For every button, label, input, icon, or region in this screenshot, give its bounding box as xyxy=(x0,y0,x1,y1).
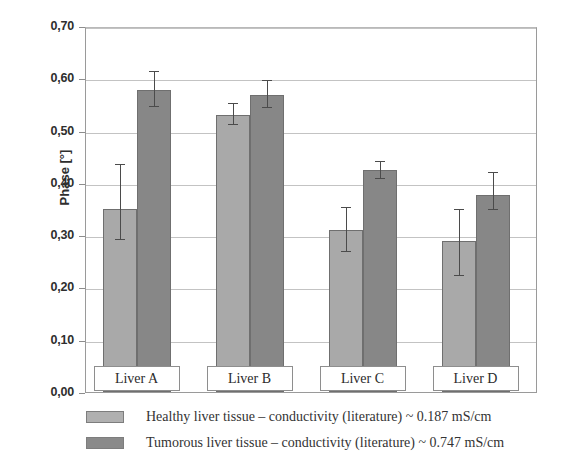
gridline xyxy=(86,28,536,29)
error-bar-cap-bottom xyxy=(115,239,125,240)
error-bar xyxy=(228,103,238,125)
y-tick-label: 0,40 xyxy=(14,176,74,190)
error-bar-cap-top xyxy=(341,207,351,208)
y-tick-label: 0,20 xyxy=(14,280,74,294)
error-bar-stem xyxy=(233,103,234,125)
error-bar-cap-bottom xyxy=(262,107,272,108)
error-bar-cap-top xyxy=(454,209,464,210)
error-bar-stem xyxy=(493,172,494,210)
bar-tumorous xyxy=(137,90,171,392)
error-bar-stem xyxy=(380,161,381,179)
y-tick-label: 0,70 xyxy=(14,19,74,33)
legend-label-tumorous: Tumorous liver tissue – conductivity (li… xyxy=(146,435,504,451)
error-bar-cap-top xyxy=(149,71,159,72)
error-bar xyxy=(488,172,498,210)
legend-swatch-healthy-icon xyxy=(86,411,124,423)
error-bar xyxy=(115,164,125,240)
error-bar-cap-top xyxy=(115,164,125,165)
legend-item: Tumorous liver tissue – conductivity (li… xyxy=(86,430,556,456)
category-label-liver-b: Liver B xyxy=(207,366,293,391)
legend-label-healthy: Healthy liver tissue – conductivity (lit… xyxy=(146,409,491,425)
y-tick-label: 0,00 xyxy=(14,385,74,399)
category-label-liver-d: Liver D xyxy=(433,366,519,391)
bar-tumorous xyxy=(363,170,397,392)
y-tick-label: 0,50 xyxy=(14,124,74,138)
bar-healthy xyxy=(216,115,250,392)
y-tick-mark xyxy=(79,393,85,394)
error-bar-cap-bottom xyxy=(228,124,238,125)
chart-legend: Healthy liver tissue – conductivity (lit… xyxy=(86,404,556,456)
bar-tumorous xyxy=(476,195,510,392)
error-bar-cap-top xyxy=(228,103,238,104)
error-bar xyxy=(262,80,272,108)
error-bar-cap-top xyxy=(488,172,498,173)
legend-item: Healthy liver tissue – conductivity (lit… xyxy=(86,404,556,430)
error-bar-cap-top xyxy=(262,80,272,81)
error-bar-cap-bottom xyxy=(149,106,159,107)
bar-chart: Phase [°] 0,700,600,500,400,300,200,100,… xyxy=(0,0,568,472)
error-bar-cap-top xyxy=(375,161,385,162)
error-bar xyxy=(149,71,159,107)
error-bar-stem xyxy=(154,71,155,107)
error-bar xyxy=(341,207,351,252)
error-bar-stem xyxy=(120,164,121,240)
error-bar-stem xyxy=(267,80,268,108)
error-bar-cap-bottom xyxy=(375,178,385,179)
plot-area: Liver ALiver BLiver CLiver D xyxy=(85,27,537,393)
error-bar-cap-bottom xyxy=(341,251,351,252)
error-bar-stem xyxy=(346,207,347,252)
category-label-liver-a: Liver A xyxy=(94,366,180,391)
y-tick-label: 0,60 xyxy=(14,71,74,85)
legend-swatch-tumorous-icon xyxy=(86,437,124,449)
error-bar-stem xyxy=(459,209,460,276)
error-bar xyxy=(375,161,385,179)
error-bar-cap-bottom xyxy=(488,209,498,210)
bar-tumorous xyxy=(250,95,284,392)
error-bar-cap-bottom xyxy=(454,275,464,276)
y-tick-label: 0,10 xyxy=(14,333,74,347)
y-tick-label: 0,30 xyxy=(14,228,74,242)
category-label-liver-c: Liver C xyxy=(320,366,406,391)
error-bar xyxy=(454,209,464,276)
